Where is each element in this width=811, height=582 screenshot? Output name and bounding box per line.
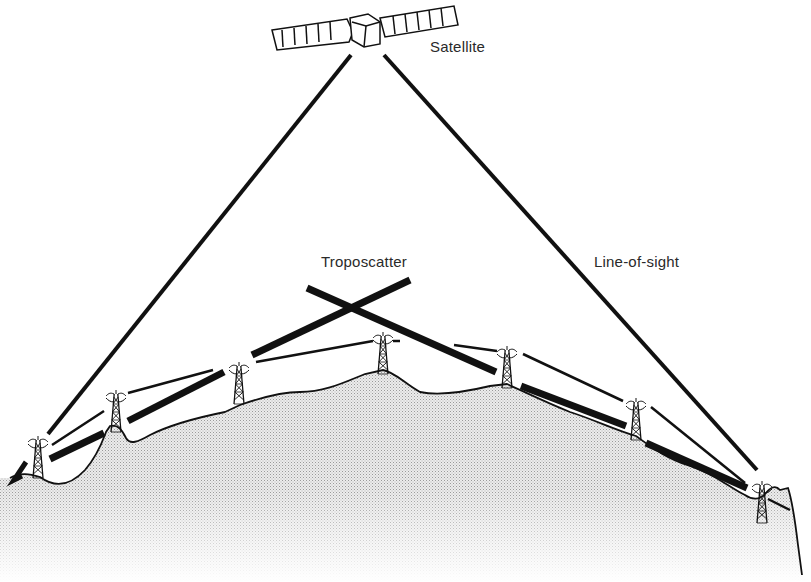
satellite-label: Satellite <box>430 38 485 55</box>
communications-diagram <box>0 0 811 582</box>
line-of-sight-label: Line-of-sight <box>594 253 679 270</box>
uplink-left <box>48 55 351 434</box>
troposcatter-label: Troposcatter <box>321 253 407 270</box>
terrain <box>0 370 811 582</box>
tower-icon <box>373 332 393 374</box>
